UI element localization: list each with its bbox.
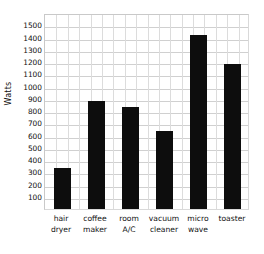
- bar-series: [45, 15, 248, 209]
- x-axis-label-line2: wave: [181, 225, 215, 236]
- y-axis-tick-label: 1500: [16, 23, 42, 30]
- y-axis-title: Watts: [2, 58, 16, 128]
- x-axis-category-label: roomA/C: [112, 214, 146, 235]
- x-axis-label-line2: A/C: [112, 225, 146, 236]
- y-axis-tick-label: 700: [16, 121, 42, 128]
- x-axis-category-label: vacuumcleaner: [147, 214, 181, 235]
- x-axis-label-line2: maker: [78, 225, 112, 236]
- bar: [224, 64, 241, 210]
- x-axis-category-label: hairdryer: [44, 214, 78, 235]
- x-axis-label-line1: hair: [54, 214, 69, 223]
- y-axis-tick-label: 1100: [16, 72, 42, 79]
- x-axis-label-line1: room: [119, 214, 139, 223]
- bar: [88, 101, 105, 210]
- x-axis-label-line2: dryer: [44, 225, 78, 236]
- y-axis-tick-labels: 1002003004005006007008009001000110012001…: [16, 14, 42, 210]
- x-axis-label-line2: cleaner: [147, 225, 181, 236]
- y-axis-tick-label: 1200: [16, 59, 42, 66]
- bar: [190, 35, 207, 210]
- bar: [122, 107, 139, 210]
- y-axis-tick-label: 1400: [16, 35, 42, 42]
- x-axis-category-label: toaster: [215, 214, 249, 225]
- bar: [54, 168, 71, 210]
- y-axis-tick-label: 400: [16, 157, 42, 164]
- x-axis-category-labels: hairdryercoffeemakerroomA/Cvacuumcleaner…: [44, 214, 249, 252]
- y-axis-title-text: Watts: [5, 81, 14, 105]
- x-axis-label-line1: toaster: [218, 214, 245, 223]
- plot-area: [44, 14, 249, 210]
- x-axis-label-line1: vacuum: [149, 214, 179, 223]
- y-axis-tick-label: 500: [16, 145, 42, 152]
- y-axis-tick-label: 800: [16, 108, 42, 115]
- y-axis-tick-label: 300: [16, 170, 42, 177]
- y-axis-tick-label: 100: [16, 194, 42, 201]
- y-axis-tick-label: 900: [16, 96, 42, 103]
- bar-chart: Watts 1002003004005006007008009001000110…: [0, 0, 264, 254]
- y-axis-tick-label: 1300: [16, 47, 42, 54]
- x-axis-label-line1: micro: [187, 214, 208, 223]
- bar: [156, 131, 173, 210]
- x-axis-label-line1: coffee: [83, 214, 106, 223]
- x-axis-category-label: microwave: [181, 214, 215, 235]
- y-axis-tick-label: 1000: [16, 84, 42, 91]
- y-axis-tick-label: 200: [16, 182, 42, 189]
- y-axis-tick-label: 600: [16, 133, 42, 140]
- x-axis-category-label: coffeemaker: [78, 214, 112, 235]
